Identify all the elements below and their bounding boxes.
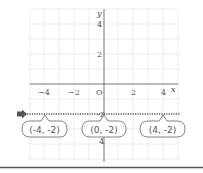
y-tick: 2 bbox=[97, 50, 102, 59]
x-tick: 4 bbox=[161, 88, 166, 97]
arrow-right-icon bbox=[17, 110, 27, 119]
x-tick: 2 bbox=[131, 88, 136, 97]
y-tick: 4 bbox=[97, 20, 102, 29]
point-label: (0, -2) bbox=[90, 125, 117, 135]
x-tick: −4 bbox=[38, 88, 50, 97]
point-label-callout: (-4, -2) bbox=[22, 115, 67, 137]
coordinate-plane: y x O −4 −2 2 4 4 2 -2 (-4, -2) (0, -2) … bbox=[0, 0, 203, 173]
x-tick: −2 bbox=[68, 88, 80, 97]
point-label: (4, -2) bbox=[149, 125, 176, 135]
y-tick: 4 bbox=[99, 137, 104, 146]
origin-label: O bbox=[96, 88, 103, 97]
y-axis-label: y bbox=[96, 9, 102, 18]
x-axis-label: x bbox=[171, 85, 176, 94]
point-label: (-4, -2) bbox=[29, 125, 60, 135]
